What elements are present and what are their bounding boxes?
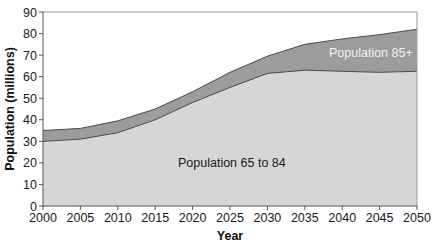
y-tick-label: 50 <box>23 92 37 106</box>
x-tick-label: 2025 <box>216 211 244 225</box>
x-tick-label: 2040 <box>328 211 356 225</box>
y-tick-label: 30 <box>23 135 37 149</box>
y-tick-label: 40 <box>23 113 37 127</box>
x-tick-label: 2030 <box>253 211 281 225</box>
y-tick-label: 20 <box>23 156 37 170</box>
x-tick-label: 2035 <box>291 211 319 225</box>
x-tick-label: 2015 <box>141 211 169 225</box>
x-tick-label: 2000 <box>29 211 57 225</box>
x-tick-label: 2045 <box>366 211 394 225</box>
y-tick-label: 60 <box>23 70 37 84</box>
y-tick-label: 80 <box>23 27 37 41</box>
y-tick-label: 90 <box>23 6 37 20</box>
stacked-area-chart: 0102030405060708090 20002005201020152020… <box>0 0 436 246</box>
x-axis: 2000200520102015202020252030203520402045… <box>29 206 431 225</box>
series-label-85-plus: Population 85+ <box>329 46 413 60</box>
y-tick-label: 10 <box>23 178 37 192</box>
y-axis-title: Population (millions) <box>3 47 17 171</box>
y-axis: 0102030405060708090 <box>23 6 43 214</box>
x-tick-label: 2005 <box>66 211 94 225</box>
area-65-to-84 <box>43 70 417 206</box>
x-tick-label: 2050 <box>403 211 431 225</box>
x-axis-title: Year <box>217 229 244 243</box>
y-tick-label: 70 <box>23 49 37 63</box>
series-label-65-to-84: Population 65 to 84 <box>178 156 286 170</box>
x-tick-label: 2020 <box>179 211 207 225</box>
x-tick-label: 2010 <box>104 211 132 225</box>
